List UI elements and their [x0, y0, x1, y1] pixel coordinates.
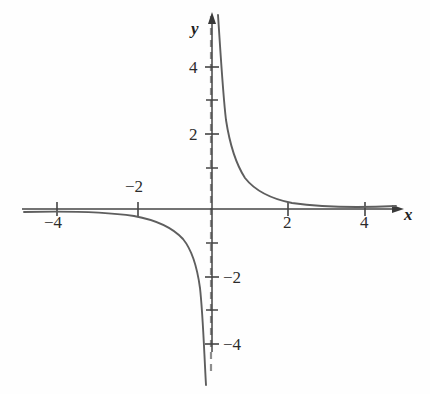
curve-branch-left: [24, 212, 206, 385]
hyperbola-graph-figure: x y −4 −2 2 4 4 2 −2 −4: [0, 0, 430, 394]
y-tick-label-pos4: 4: [189, 59, 198, 76]
x-tick-label-neg2: −2: [125, 178, 143, 195]
y-tick-label-pos2: 2: [189, 126, 198, 143]
curve-branch-right: [218, 15, 396, 207]
y-axis-label: y: [191, 20, 199, 37]
y-axis-arrow-icon: [208, 12, 216, 24]
x-tick-label-pos4: 4: [360, 214, 369, 231]
x-tick-label-neg4: −4: [44, 214, 62, 231]
y-tick-label-neg2: −2: [223, 269, 241, 286]
x-tick-label-pos2: 2: [283, 214, 292, 231]
plot-canvas: [0, 0, 430, 394]
x-axis-label: x: [404, 206, 413, 223]
y-tick-label-neg4: −4: [223, 336, 241, 353]
